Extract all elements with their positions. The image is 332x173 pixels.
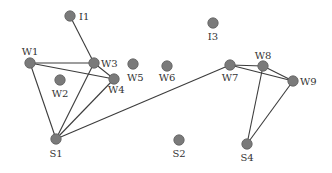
node-label-w4: W4: [108, 84, 125, 95]
node-label-w6: W6: [159, 72, 176, 83]
node-s1: [51, 134, 61, 144]
node-w9: [288, 76, 298, 86]
edge-w3-s1: [56, 63, 94, 139]
network-diagram: I1I3W1W2W3W4W5W6W7W8W9S1S2S4: [0, 0, 332, 173]
node-label-s4: S4: [240, 152, 253, 163]
node-i1: [65, 11, 75, 21]
node-label-s1: S1: [49, 148, 62, 159]
edge-i1-w3: [70, 16, 94, 63]
node-w5: [128, 59, 138, 69]
node-w3: [89, 58, 99, 68]
node-label-w7: W7: [222, 72, 239, 83]
node-label-w1: W1: [22, 46, 39, 57]
node-label-s2: S2: [172, 148, 185, 159]
node-label-w3: W3: [101, 58, 118, 69]
node-label-i1: I1: [79, 11, 89, 22]
node-label-i3: I3: [208, 31, 218, 42]
node-label-w2: W2: [52, 88, 69, 99]
labels-layer: I1I3W1W2W3W4W5W6W7W8W9S1S2S4: [22, 11, 317, 163]
node-w6: [162, 61, 172, 71]
node-i3: [208, 18, 218, 28]
node-w4: [109, 74, 119, 84]
node-w7: [225, 60, 235, 70]
edge-w1-s1: [30, 63, 56, 139]
node-w2: [55, 75, 65, 85]
node-w1: [25, 58, 35, 68]
node-label-w8: W8: [255, 50, 272, 61]
node-s2: [174, 135, 184, 145]
node-s4: [242, 139, 252, 149]
node-label-w9: W9: [300, 76, 317, 87]
node-w8: [258, 61, 268, 71]
node-label-w5: W5: [127, 72, 144, 83]
